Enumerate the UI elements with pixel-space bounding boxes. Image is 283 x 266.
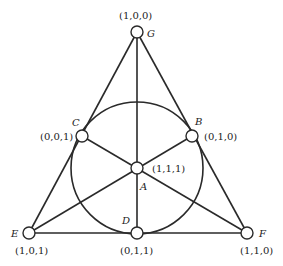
- point-c: [76, 130, 88, 142]
- point-e: [23, 227, 35, 239]
- fano-plane-diagram: (1,0,0) G (0,0,1) C (0,1,0) B (1,1,1) A …: [0, 0, 283, 266]
- coords-b: (0,1,0): [204, 131, 237, 142]
- name-c: C: [72, 117, 80, 128]
- coords-g: (1,0,0): [119, 10, 152, 21]
- point-f: [241, 227, 253, 239]
- coords-f: (1,1,0): [240, 245, 273, 256]
- point-b: [186, 130, 198, 142]
- point-a: [131, 162, 143, 174]
- name-e: E: [10, 228, 19, 239]
- name-g: G: [147, 28, 155, 39]
- name-a: A: [139, 181, 147, 192]
- coords-e: (1,0,1): [15, 245, 48, 256]
- name-b: B: [194, 116, 202, 127]
- name-d: D: [121, 215, 130, 226]
- point-d: [131, 227, 143, 239]
- line-fac: [82, 136, 247, 233]
- coords-d: (0,1,1): [120, 245, 153, 256]
- coords-a: (1,1,1): [152, 163, 185, 174]
- name-f: F: [258, 228, 267, 239]
- coords-c: (0,0,1): [40, 131, 73, 142]
- point-g: [131, 26, 143, 38]
- line-eab: [29, 136, 192, 233]
